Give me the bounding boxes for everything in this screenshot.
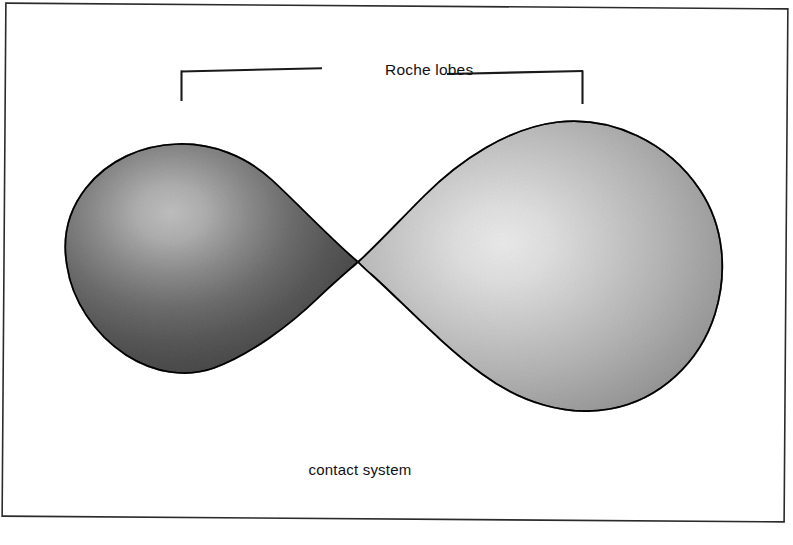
figure-root: Roche lobes contact system — [0, 0, 793, 545]
secondary-lobe-right — [358, 121, 722, 411]
secondary-lobe-path — [358, 121, 722, 411]
contact-system-caption: contact system — [309, 461, 412, 478]
bracket-segment-left — [181, 68, 322, 71]
primary-lobe-path — [65, 144, 358, 373]
roche-lobes-diagram: Roche lobes contact system — [0, 0, 793, 545]
roche-lobes-bracket — [181, 68, 583, 104]
primary-lobe-left — [65, 144, 358, 373]
roche-lobes-label: Roche lobes — [385, 61, 473, 78]
